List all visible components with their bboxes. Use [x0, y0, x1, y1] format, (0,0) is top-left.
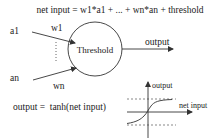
neuron-threshold-label: Threshold — [77, 45, 114, 55]
output-label: output — [145, 37, 170, 47]
net-input-formula: net input = w1*a1 + ... + wn*an + thresh… — [36, 5, 203, 15]
activation-formula: output = tanh(net input) — [13, 102, 106, 113]
input-a1-connection — [32, 32, 75, 43]
graph-y-axis-label: output — [152, 81, 173, 90]
input-a1-label: a1 — [10, 26, 19, 36]
graph-x-axis-label: net input — [179, 101, 208, 110]
input-an-label: an — [10, 73, 19, 83]
tanh-curve — [127, 100, 172, 124]
tanh-graph: output net input — [127, 81, 208, 138]
weight-w1-label: w1 — [51, 23, 63, 33]
neuron-diagram: net input = w1*a1 + ... + wn*an + thresh… — [0, 0, 217, 140]
weight-wn-label: wn — [53, 81, 65, 91]
input-an-connection — [33, 68, 76, 80]
